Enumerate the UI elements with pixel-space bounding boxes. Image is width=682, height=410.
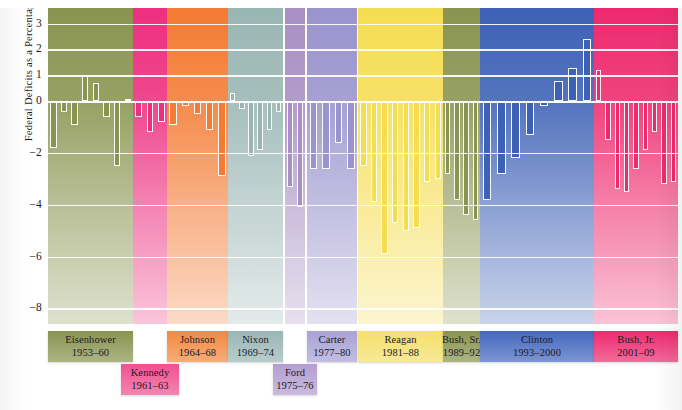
bar — [158, 101, 165, 122]
bar — [322, 101, 330, 168]
administration-label-reagan: Reagan1981–88 — [358, 331, 443, 362]
bar — [71, 101, 77, 124]
panel-background — [48, 8, 133, 324]
bar — [605, 101, 611, 140]
administration-name: Johnson — [180, 334, 215, 347]
bar — [257, 101, 263, 150]
administration-label-carter: Carter1977–80 — [307, 331, 357, 362]
plot-area — [48, 8, 678, 324]
bar — [671, 101, 677, 181]
administration-label-bush-jr: Bush, Jr.2001–09 — [594, 331, 678, 362]
bar — [182, 101, 189, 106]
panel-bush-sr — [443, 8, 480, 324]
bar — [568, 68, 577, 102]
y-axis: Federal Deficits as a Percentage of GDP … — [0, 0, 48, 334]
panel-bush-jr — [594, 8, 678, 324]
y-tick-label: −4 — [29, 199, 42, 211]
bar — [169, 101, 176, 124]
bar — [473, 101, 479, 220]
administration-name: Kennedy — [131, 367, 170, 380]
administration-years: 1993–2000 — [513, 347, 561, 360]
administration-years: 2001–09 — [617, 347, 654, 360]
bar — [540, 101, 549, 106]
bar — [624, 101, 630, 192]
y-tick-label: −8 — [29, 303, 42, 315]
bar — [511, 101, 520, 158]
y-tick-label: 3 — [36, 18, 42, 30]
panel-reagan — [358, 8, 443, 324]
panel-ford — [285, 8, 305, 324]
bar — [596, 70, 602, 101]
administration-years: 1975–76 — [276, 380, 313, 393]
bar — [392, 101, 398, 223]
administration-label-ford: Ford1975–76 — [273, 364, 317, 395]
bar — [360, 101, 366, 166]
y-tick-label: −6 — [29, 251, 42, 263]
administration-name: Reagan — [384, 334, 416, 347]
bar — [413, 101, 419, 228]
panel-kennedy — [133, 8, 167, 324]
bar — [463, 101, 469, 215]
bar — [82, 75, 88, 101]
bar — [526, 101, 535, 135]
bar — [583, 39, 592, 101]
bar — [435, 101, 441, 179]
bar — [147, 101, 154, 132]
bar — [497, 101, 506, 174]
bar — [347, 101, 355, 168]
administration-label-eisenhower: Eisenhower1953–60 — [48, 331, 133, 362]
bar — [61, 101, 67, 111]
bar — [248, 101, 254, 155]
administration-label-kennedy: Kennedy1961–63 — [121, 364, 179, 395]
top-margin — [0, 0, 682, 8]
bar — [276, 101, 282, 111]
bar — [371, 101, 377, 202]
bar — [239, 101, 245, 109]
bar — [230, 93, 236, 101]
panel-carter — [307, 8, 357, 324]
administration-label-bush-sr: Bush, Sr.1989–92 — [443, 331, 480, 362]
administration-years: 1977–80 — [313, 347, 350, 360]
administration-label-clinton: Clinton1993–2000 — [480, 331, 594, 362]
bar — [554, 81, 563, 102]
administration-name: Carter — [319, 334, 346, 347]
bar — [287, 101, 293, 186]
bar — [661, 101, 667, 184]
bar — [50, 101, 56, 148]
bar — [424, 101, 430, 181]
bar — [206, 101, 213, 129]
bar — [403, 101, 409, 231]
administration-name: Clinton — [521, 334, 553, 347]
y-tick-label: −2 — [29, 147, 42, 159]
bar — [114, 101, 120, 166]
administration-name: Bush, Jr. — [617, 334, 654, 347]
bar — [194, 101, 201, 114]
administration-years: 1964–68 — [179, 347, 216, 360]
administration-name: Ford — [285, 367, 305, 380]
bar — [643, 101, 649, 150]
chart-figure: Federal Deficits as a Percentage of GDP … — [0, 0, 682, 410]
panel-background — [228, 8, 283, 324]
bar — [218, 101, 225, 176]
panel-eisenhower — [48, 8, 133, 324]
bar — [335, 101, 343, 142]
bar — [615, 101, 621, 189]
administration-years: 1989–92 — [443, 347, 480, 360]
administration-label-johnson: Johnson1964–68 — [167, 331, 228, 362]
administration-years: 1969–74 — [237, 347, 274, 360]
bar — [652, 101, 658, 132]
panel-background — [133, 8, 167, 324]
bar — [267, 101, 273, 129]
bar — [297, 101, 303, 207]
bar — [454, 101, 460, 199]
bar — [135, 101, 142, 117]
bar — [93, 83, 99, 101]
administration-years: 1953–60 — [72, 347, 109, 360]
y-tick-label: 2 — [36, 44, 42, 56]
administration-years: 1961–63 — [131, 380, 168, 393]
administration-years: 1981–88 — [382, 347, 419, 360]
bar — [310, 101, 318, 168]
panel-johnson — [167, 8, 228, 324]
bar — [125, 99, 131, 102]
administration-name: Nixon — [242, 334, 269, 347]
